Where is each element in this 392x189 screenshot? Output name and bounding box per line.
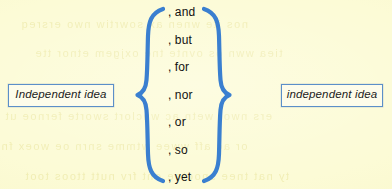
- left-independent-idea-box: Independent idea: [8, 84, 114, 107]
- conjunction-item: , nor: [156, 89, 193, 102]
- right-independent-idea-box: independent idea: [281, 84, 383, 107]
- conjunction-item: , yet: [156, 171, 191, 184]
- conjunction-item: , for: [156, 61, 189, 74]
- conjunction-item: , or: [156, 116, 186, 129]
- conjunction-diagram: nos ite wnen ax sowrtiw nwo ersreq tiea …: [0, 0, 392, 189]
- right-independent-idea-label: independent idea: [287, 89, 378, 102]
- conjunction-item: , so: [156, 144, 188, 157]
- conjunction-list: , and , but , for , nor , or , so , yet: [156, 6, 212, 184]
- conjunction-item: , and: [156, 6, 195, 19]
- conjunction-item: , but: [156, 34, 192, 47]
- left-independent-idea-label: Independent idea: [15, 89, 106, 102]
